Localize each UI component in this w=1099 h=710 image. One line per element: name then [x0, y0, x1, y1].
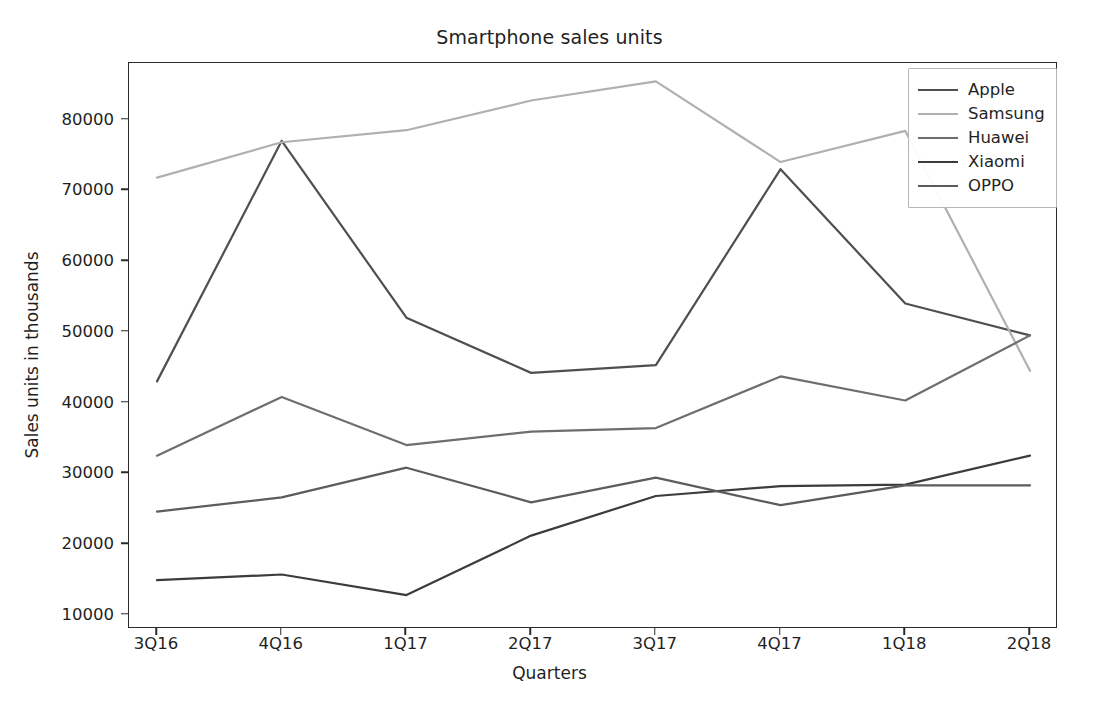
y-tick-label: 80000 [30, 109, 114, 128]
x-tick-mark [1028, 628, 1030, 635]
legend-color-swatch [918, 161, 958, 163]
legend-item[interactable]: Apple [918, 78, 1045, 102]
legend-item[interactable]: Xiaomi [918, 150, 1045, 174]
x-axis-label: Quarters [0, 663, 1099, 683]
chart-title: Smartphone sales units [0, 26, 1099, 48]
y-tick-mark [121, 330, 128, 332]
x-tick-label: 3Q16 [134, 634, 178, 653]
x-tick-label: 4Q16 [258, 634, 302, 653]
y-tick-mark [121, 472, 128, 474]
x-tick-label: 1Q18 [882, 634, 926, 653]
y-tick-mark [121, 401, 128, 403]
x-tick-mark [529, 628, 531, 635]
y-tick-label: 10000 [30, 604, 114, 623]
chart-legend: AppleSamsungHuaweiXiaomiOPPO [908, 68, 1057, 208]
x-tick-label: 1Q17 [383, 634, 427, 653]
legend-color-swatch [918, 137, 958, 139]
x-tick-label: 3Q17 [633, 634, 677, 653]
legend-label: OPPO [968, 178, 1014, 195]
x-tick-mark [779, 628, 781, 635]
chart-figure: Smartphone sales units Sales units in th… [0, 0, 1099, 710]
legend-color-swatch [918, 89, 958, 91]
y-tick-label: 50000 [30, 321, 114, 340]
legend-label: Huawei [968, 130, 1029, 147]
legend-item[interactable]: Samsung [918, 102, 1045, 126]
legend-label: Xiaomi [968, 154, 1025, 171]
legend-color-swatch [918, 113, 958, 115]
legend-label: Apple [968, 82, 1015, 99]
y-tick-mark [121, 118, 128, 120]
y-tick-label: 40000 [30, 392, 114, 411]
y-tick-label: 20000 [30, 534, 114, 553]
y-tick-label: 70000 [30, 180, 114, 199]
x-tick-mark [654, 628, 656, 635]
y-tick-label: 60000 [30, 251, 114, 270]
x-tick-mark [280, 628, 282, 635]
legend-item[interactable]: Huawei [918, 126, 1045, 150]
y-tick-label: 30000 [30, 463, 114, 482]
x-tick-label: 4Q17 [757, 634, 801, 653]
y-axis-label: Sales units in thousands [22, 155, 42, 555]
series-line [157, 81, 1030, 370]
series-line [157, 335, 1030, 455]
series-line [157, 468, 1030, 512]
series-line [157, 141, 1030, 382]
y-tick-mark [121, 542, 128, 544]
y-tick-mark [121, 189, 128, 191]
y-tick-mark [121, 259, 128, 261]
x-tick-mark [405, 628, 407, 635]
y-tick-mark [121, 613, 128, 615]
x-tick-mark [904, 628, 906, 635]
legend-color-swatch [918, 185, 958, 187]
series-line [157, 456, 1030, 595]
legend-item[interactable]: OPPO [918, 174, 1045, 198]
x-tick-mark [155, 628, 157, 635]
legend-label: Samsung [968, 106, 1045, 123]
x-tick-label: 2Q17 [508, 634, 552, 653]
x-tick-label: 2Q18 [1007, 634, 1051, 653]
